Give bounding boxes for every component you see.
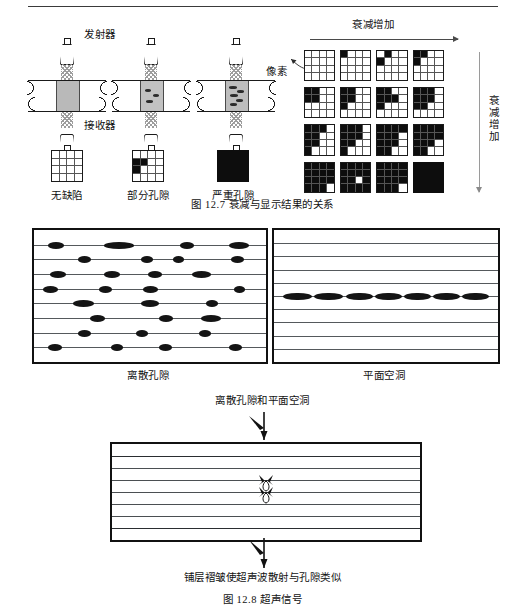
pixel-cell [348,125,355,132]
down-arrow-bottom [240,534,280,570]
pixel-cell [356,177,363,184]
pixel-cell [348,140,355,147]
panel-discrete-porosity [32,228,268,364]
pixel-cell [341,95,348,102]
pixel-cell [399,177,406,184]
pixel-cell [348,95,355,102]
pixel-cell [428,147,435,154]
pixel-grid [376,162,407,193]
pixel-cell [363,184,370,191]
pixel-cell [399,147,406,154]
pixel-cell [363,163,370,170]
pixel-cell [421,147,428,154]
pixel-cell [348,88,355,95]
plate-break-edge-right [99,80,107,112]
pixel-grid [340,50,371,81]
pixel-cell [327,103,334,110]
pixel-cell [148,166,156,174]
discrete-pore [111,344,123,351]
pixel-cell [414,125,421,132]
pore-mark [230,94,238,97]
pixel-cell [399,163,406,170]
pixel-cell [312,110,319,117]
pixel-cell [312,51,319,58]
pixel-cell [305,95,312,102]
pixel-cell [377,51,384,58]
planar-void-segment [404,293,431,301]
pixel-cell [305,170,312,177]
pixel-cell [392,133,399,140]
pixel-cell [356,58,363,65]
pixel-grid [413,87,444,118]
pore-mark [237,90,244,93]
pixel-cell [377,66,384,73]
pixel-cell [377,170,384,177]
ply-wrinkle-marker [256,485,276,507]
ultrasonic-beam-incident [145,64,157,80]
pixel-cell [320,125,327,132]
matrix-cell-r1-c2 [340,50,371,81]
pixel-cell [348,170,355,177]
discrete-pore [192,271,211,278]
pixel-cell [377,110,384,117]
pixel-cell [341,163,348,170]
pixel-cell [421,110,428,117]
matrix-cell-r4-c4 [413,162,444,193]
pixel-cell [133,174,141,182]
discrete-pore [73,300,94,307]
transducer-assembly-partial-porosity [112,38,190,154]
pixel-cell [320,184,327,191]
pixel-cell [356,133,363,140]
pixel-cell [399,66,406,73]
discrete-pore [78,330,91,337]
pixel-cell [421,73,428,80]
pixel-cell [305,177,312,184]
pixel-cell [428,140,435,147]
ply-line [274,309,498,310]
transmitter-probe [227,38,245,64]
discrete-pore [143,286,158,293]
pixel-cell [363,147,370,154]
pixel-cell [392,170,399,177]
pixel-cell [363,73,370,80]
pixel-cell [435,88,442,95]
down-arrow-top [240,410,280,442]
ply-line [274,270,498,271]
discrete-pore [201,315,221,322]
pixel-cell [341,110,348,117]
ply-line [274,243,498,244]
pixel-cell [312,177,319,184]
planar-void-segment [462,293,489,301]
ultrasonic-beam-transmitted [145,112,157,128]
pixel-cell [356,66,363,73]
pixel-cell [377,147,384,154]
planar-void-segment [346,293,373,301]
pixel-cell [377,163,384,170]
pixel-cell [385,184,392,191]
pixel-cell [385,103,392,110]
discrete-pore [104,271,120,278]
laminate-plate [112,80,190,112]
ply-line [34,333,266,334]
panel-planar-void [272,228,500,364]
pixel-cell [428,133,435,140]
mid-annotation-label: 离散孔隙和平面空洞 [0,392,525,407]
matrix-cell-r1-c3 [376,50,407,81]
pixel-cell [133,166,141,174]
attenuation-horizontal-arrow [310,39,458,40]
planar-void-segment [375,293,402,301]
pixel-label: 像素 [266,63,287,78]
pixel-cell [399,110,406,117]
pixel-cell [327,147,334,154]
pixel-cell [327,163,334,170]
figure-12-8-caption: 图 12.8 超声信号 [0,591,525,606]
matrix-row [304,124,449,161]
pixel-cell [363,125,370,132]
pixel-cell [363,103,370,110]
pixel-cell [305,163,312,170]
discrete-pore [229,242,249,249]
figure-12-7: 发射器 接收器 [0,0,525,215]
pixel-cell [312,163,319,170]
pixel-cell [435,51,442,58]
pixel-grid [413,124,444,155]
